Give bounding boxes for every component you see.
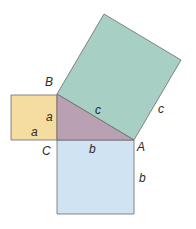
side-label-c-outer: c	[158, 102, 164, 116]
vertex-label-c: C	[42, 144, 51, 158]
side-label-a-left: a	[46, 110, 53, 124]
vertex-label-b: B	[45, 75, 53, 89]
side-label-c-hyp: c	[95, 103, 101, 117]
side-label-a-bottom: a	[31, 125, 38, 139]
vertex-label-a: A	[136, 140, 145, 154]
side-label-b-right: b	[139, 171, 146, 185]
pythagorean-diagram: B C A a a b b c c	[0, 0, 196, 229]
side-label-b-top: b	[89, 142, 96, 156]
